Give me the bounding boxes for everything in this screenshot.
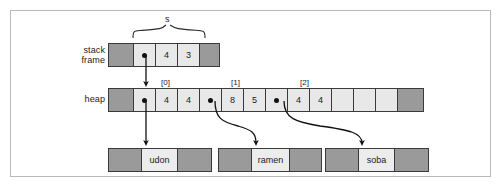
- heap-cell-3: 4: [178, 89, 200, 111]
- heap-cell-7: [266, 89, 288, 111]
- string-box-soba: soba: [325, 148, 429, 172]
- pointer-dot-icon: [274, 98, 279, 103]
- heap-row: 448544: [108, 88, 424, 112]
- stack-cell-0: [109, 44, 134, 66]
- string-box-ramen: ramen: [218, 148, 322, 172]
- soba-cell-2: [395, 149, 428, 171]
- heap-cell-1: [134, 89, 156, 111]
- string-box-udon: udon: [108, 148, 212, 172]
- udon-cell-2: [178, 149, 211, 171]
- heap-cell-9: 4: [310, 89, 332, 111]
- heap-index-label-1: [1]: [231, 78, 240, 87]
- heap-cell-6: 5: [244, 89, 266, 111]
- pointer-dot-icon: [142, 98, 147, 103]
- heap-label: heap: [60, 94, 105, 104]
- soba-cell-1: soba: [359, 149, 395, 171]
- stack-cell-3: 3: [178, 44, 200, 66]
- stack-cell-4: [200, 44, 219, 66]
- figure-root: s stack frame 43 heap [0] [1] [2] 448544…: [0, 0, 503, 187]
- pointer-dot-icon: [208, 98, 213, 103]
- stack-cell-2: 4: [156, 44, 178, 66]
- heap-cell-11: [354, 89, 376, 111]
- pointer-dot-icon: [142, 53, 147, 58]
- heap-cell-5: 8: [222, 89, 244, 111]
- ramen-cell-1: ramen: [252, 149, 290, 171]
- udon-cell-1: udon: [142, 149, 178, 171]
- heap-cell-text-8: 4: [296, 95, 301, 105]
- ramen-cell-0: [219, 149, 252, 171]
- heap-cell-10: [332, 89, 354, 111]
- heap-cell-12: [376, 89, 398, 111]
- stack-cell-text-2: 4: [164, 50, 169, 60]
- stack-frame-label-line2: frame: [60, 55, 105, 65]
- heap-cell-text-3: 4: [186, 95, 191, 105]
- heap-cell-text-9: 4: [318, 95, 323, 105]
- brace-label-s: s: [165, 14, 170, 24]
- ramen-cell-2: [290, 149, 321, 171]
- heap-cell-text-5: 8: [230, 95, 235, 105]
- udon-cell-text-1: udon: [149, 155, 169, 165]
- stack-frame-row: 43: [108, 43, 220, 67]
- heap-cell-text-6: 5: [252, 95, 257, 105]
- heap-index-label-2: [2]: [300, 78, 309, 87]
- heap-cell-2: 4: [156, 89, 178, 111]
- heap-cell-4: [200, 89, 222, 111]
- soba-cell-0: [326, 149, 359, 171]
- heap-cell-8: 4: [288, 89, 310, 111]
- heap-cell-0: [109, 89, 134, 111]
- stack-cell-1: [134, 44, 156, 66]
- stack-frame-label-line1: stack: [60, 45, 105, 55]
- heap-cell-text-2: 4: [164, 95, 169, 105]
- soba-cell-text-1: soba: [367, 155, 387, 165]
- ramen-cell-text-1: ramen: [258, 155, 284, 165]
- stack-cell-text-3: 3: [186, 50, 191, 60]
- udon-cell-0: [109, 149, 142, 171]
- heap-cell-13: [398, 89, 423, 111]
- heap-index-label-0: [0]: [161, 78, 170, 87]
